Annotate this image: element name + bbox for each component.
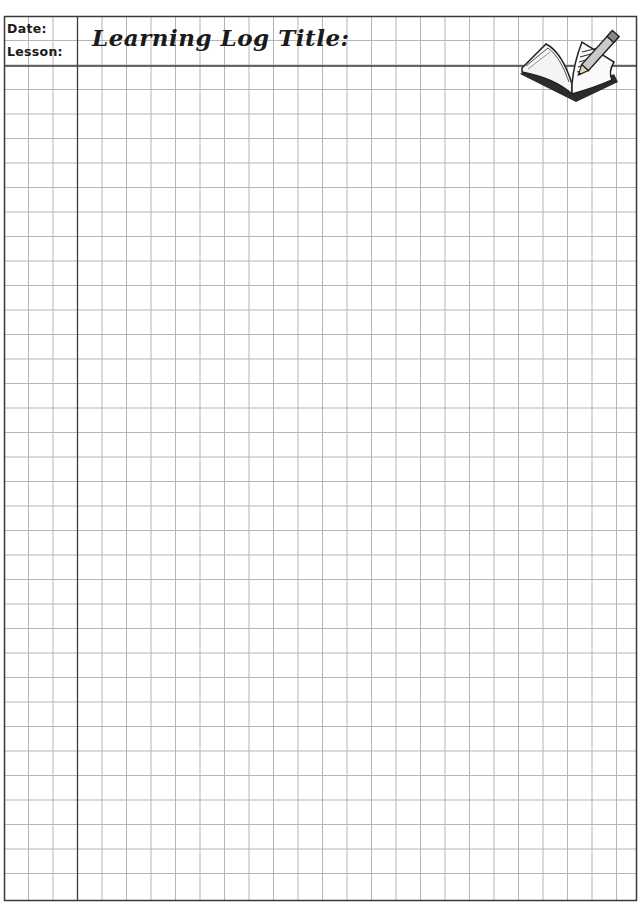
learning-log-page: Date: Lesson: Learning Log Title: — [0, 0, 641, 907]
open-book-with-pencil-icon — [514, 22, 626, 104]
date-label: Date: — [7, 21, 47, 36]
learning-log-title-label: Learning Log Title: — [92, 24, 350, 51]
graph-paper-grid — [0, 0, 641, 907]
lesson-label: Lesson: — [7, 44, 63, 59]
